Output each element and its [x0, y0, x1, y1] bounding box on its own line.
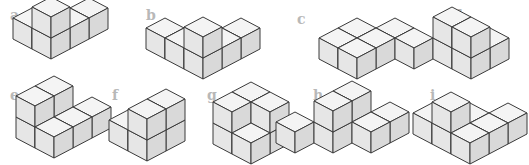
cube-stack-i — [0, 0, 529, 165]
